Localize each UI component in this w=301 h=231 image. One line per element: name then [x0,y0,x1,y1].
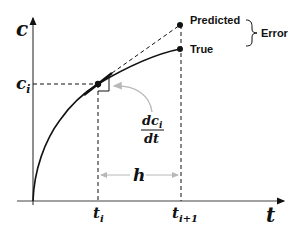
slope-denominator: dt [144,131,159,146]
ti1-label: ti+1 [172,204,198,224]
predicted-label: Predicted [190,14,240,26]
predicted-point [177,22,183,28]
ci-point [95,81,101,87]
ti-label: ti [93,204,104,224]
euler-method-diagram: c t ci ti ti+1 dci dt h Predicted True E… [0,0,301,231]
h-label: h [133,165,145,185]
y-axis-label: c [16,17,28,41]
error-brace [246,20,257,46]
slope-pointer-arrow [114,86,152,112]
x-axis-label: t [266,203,276,227]
true-point [177,46,183,52]
true-label: True [190,43,213,55]
ci-label: ci [16,73,31,96]
tangent-extrapolation [112,25,180,73]
error-label: Error [261,27,289,39]
slope-numerator: dci [142,113,163,130]
